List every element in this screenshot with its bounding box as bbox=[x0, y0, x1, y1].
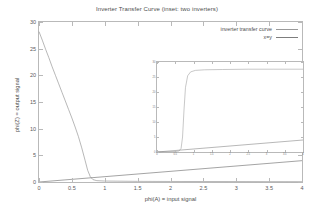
y-tick-label: 25 bbox=[153, 76, 156, 79]
y-tick bbox=[157, 107, 159, 108]
y-tick-label: 20 bbox=[30, 72, 36, 78]
x-tick bbox=[72, 22, 73, 26]
x-tick-label: 2 bbox=[169, 185, 172, 191]
x-tick bbox=[285, 62, 286, 64]
x-tick-label: 3 bbox=[235, 185, 238, 191]
x-tick bbox=[230, 62, 231, 64]
legend-key-line bbox=[276, 37, 298, 38]
y-tick bbox=[157, 77, 159, 78]
x-tick bbox=[267, 62, 268, 64]
y-tick-label: 15 bbox=[30, 99, 36, 105]
x-tick-label: 3.5 bbox=[265, 185, 273, 191]
legend-entry[interactable]: inverter transfer curve bbox=[220, 25, 299, 33]
x-tick-label: 1 bbox=[103, 185, 106, 191]
x-tick-label: 2.5 bbox=[246, 153, 250, 156]
x-tick bbox=[269, 178, 270, 182]
x-tick bbox=[212, 150, 213, 152]
x-tick bbox=[302, 22, 303, 26]
x-tick bbox=[194, 62, 195, 64]
y-tick-label: 15 bbox=[153, 106, 156, 109]
inset-series-layer bbox=[157, 62, 303, 152]
x-tick bbox=[230, 150, 231, 152]
y-tick-label: 10 bbox=[30, 126, 36, 132]
y-tick-label: 10 bbox=[153, 121, 156, 124]
inset-plot-area: 05101520253000.511.522.533.54 bbox=[156, 61, 304, 153]
x-tick-label: 1.5 bbox=[134, 185, 142, 191]
x-tick bbox=[175, 150, 176, 152]
y-tick bbox=[39, 182, 43, 183]
x-tick bbox=[72, 178, 73, 182]
y-tick-label: 25 bbox=[30, 46, 36, 52]
x-tick bbox=[212, 62, 213, 64]
x-tick-label: 0 bbox=[37, 185, 40, 191]
x-tick bbox=[285, 150, 286, 152]
legend-entry[interactable]: x=y bbox=[220, 33, 299, 41]
legend-label: inverter transfer curve bbox=[220, 26, 272, 32]
x-tick bbox=[203, 22, 204, 26]
y-tick bbox=[157, 122, 159, 123]
x-tick bbox=[171, 22, 172, 26]
x-tick-label: 3.5 bbox=[283, 153, 287, 156]
legend-label: x=y bbox=[264, 34, 272, 40]
x-tick bbox=[157, 150, 158, 152]
x-tick bbox=[157, 62, 158, 64]
y-tick-label: 5 bbox=[33, 152, 36, 158]
y-tick bbox=[39, 155, 43, 156]
x-tick-label: 0.5 bbox=[173, 153, 177, 156]
y-tick bbox=[39, 75, 43, 76]
x-tick bbox=[171, 178, 172, 182]
x-tick-label: 0.5 bbox=[68, 185, 76, 191]
y-tick bbox=[157, 137, 159, 138]
x-tick bbox=[175, 62, 176, 64]
x-tick bbox=[203, 178, 204, 182]
x-tick-label: 2.5 bbox=[200, 185, 208, 191]
x-tick-label: 1.5 bbox=[210, 153, 214, 156]
x-tick bbox=[248, 62, 249, 64]
x-tick bbox=[303, 62, 304, 64]
y-tick bbox=[301, 122, 303, 123]
y-tick bbox=[301, 92, 303, 93]
main-plot-area: 05101520253000.511.522.533.54 inverter t… bbox=[38, 21, 303, 183]
y-tick-label: 0 bbox=[33, 179, 36, 185]
x-tick bbox=[302, 178, 303, 182]
y-tick-label: 30 bbox=[30, 19, 36, 25]
x-tick-label: 1 bbox=[193, 153, 194, 156]
x-axis-title: phi(A) = input signal bbox=[38, 196, 303, 202]
x-tick bbox=[267, 150, 268, 152]
x-tick-label: 2 bbox=[229, 153, 230, 156]
chart-canvas: Inverter Transfer Curve (inset: two inve… bbox=[0, 0, 314, 216]
x-tick-label: 4 bbox=[300, 185, 303, 191]
x-tick bbox=[248, 150, 249, 152]
x-tick-label: 4 bbox=[302, 153, 303, 156]
x-tick bbox=[303, 150, 304, 152]
y-axis-title: phi(Z) = output signal bbox=[14, 60, 20, 150]
x-tick bbox=[138, 178, 139, 182]
legend: inverter transfer curvex=y bbox=[220, 25, 299, 41]
y-tick bbox=[39, 102, 43, 103]
x-tick-label: 3 bbox=[266, 153, 267, 156]
y-tick bbox=[157, 92, 159, 93]
legend-key-line bbox=[276, 29, 298, 30]
x-tick bbox=[236, 178, 237, 182]
y-tick bbox=[301, 77, 303, 78]
y-tick bbox=[301, 107, 303, 108]
x-tick-label: 0 bbox=[156, 153, 157, 156]
y-tick bbox=[39, 49, 43, 50]
y-tick bbox=[298, 49, 302, 50]
x-tick bbox=[39, 22, 40, 26]
y-tick bbox=[39, 129, 43, 130]
y-tick bbox=[301, 137, 303, 138]
series-line bbox=[157, 69, 303, 152]
x-tick bbox=[105, 22, 106, 26]
x-tick bbox=[194, 150, 195, 152]
x-tick bbox=[105, 178, 106, 182]
y-tick-label: 20 bbox=[153, 91, 156, 94]
y-tick bbox=[298, 182, 302, 183]
y-tick-label: 30 bbox=[153, 61, 156, 64]
x-tick bbox=[39, 178, 40, 182]
y-tick-label: 5 bbox=[154, 136, 155, 139]
chart-title: Inverter Transfer Curve (inset: two inve… bbox=[0, 6, 314, 12]
x-tick bbox=[138, 22, 139, 26]
